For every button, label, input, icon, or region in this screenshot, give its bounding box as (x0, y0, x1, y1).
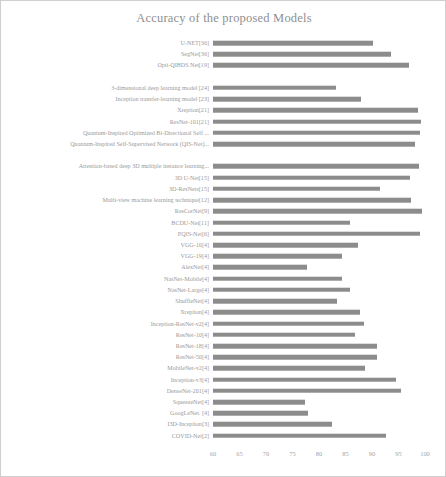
bar (213, 108, 418, 113)
bar-category-label: ResNet-50[4] (176, 354, 209, 361)
bar (213, 411, 308, 416)
bar-category-label: Inception-ResNet-v2[4] (151, 320, 209, 327)
bar-category-label: SegNet[36] (181, 51, 209, 58)
bar (213, 175, 410, 180)
bar-category-label: GoogLeNet. [4] (170, 410, 209, 417)
bar-category-label: U-NET[36] (181, 40, 209, 47)
bar (213, 209, 422, 214)
bar (213, 422, 332, 427)
bar (213, 344, 377, 349)
x-tick-label: 60 (210, 450, 216, 457)
bar-category-label: I3D-Inception[3] (167, 421, 209, 428)
bar-category-label: Opti-QIBDS Net[19] (157, 62, 209, 69)
x-tick-label: 95 (395, 450, 401, 457)
bar (213, 231, 420, 236)
bar-category-label: AlexNet[4] (181, 264, 209, 271)
bar-category-label: NasNet-Large[4] (167, 286, 209, 293)
x-tick-label: 85 (342, 450, 348, 457)
bar-category-label: 3D-ResNets[15] (169, 185, 209, 192)
bar (213, 52, 391, 57)
bar (213, 142, 415, 147)
bar-category-label: DenseNet-201[4] (167, 387, 209, 394)
bar-category-label: PQIS-Net[6] (178, 230, 209, 237)
bar-category-label: Xreption[4] (180, 309, 209, 316)
bar-category-label: VGG-19[4] (181, 253, 209, 260)
x-tick-label: 100 (420, 450, 430, 457)
bar (213, 130, 420, 135)
bar (213, 288, 350, 293)
bar (213, 41, 373, 46)
bar-category-label: 3-dimensional deep learning model [24] (111, 84, 209, 91)
bar (213, 198, 411, 203)
chart-title: Accuracy of the proposed Models (1, 11, 446, 26)
x-tick-label: 90 (369, 450, 375, 457)
bar-category-label: Inception transfer-learning model [23] (116, 96, 209, 103)
bar (213, 220, 350, 225)
bar (213, 433, 386, 438)
bar-category-label: ResCorNet[9] (175, 208, 209, 215)
bar-category-label: MobileNet-v2[4] (167, 365, 209, 372)
x-tick-label: 75 (289, 450, 295, 457)
bar-category-label: BCDU-Net[11] (171, 219, 209, 226)
bar-category-label: 3D U-Net[15] (175, 174, 209, 181)
bar (213, 299, 337, 304)
bar-category-label: ResNet-10[4] (176, 331, 209, 338)
bar (213, 276, 342, 281)
bar-category-label: SqueezeNet[4] (173, 399, 209, 406)
x-tick-label: 80 (316, 450, 322, 457)
plot-area: U-NET[36]SegNet[36]Opti-QIBDS Net[19]3-d… (1, 35, 446, 447)
bar-category-label: COVID-Net[2] (172, 432, 209, 439)
x-tick-label: 70 (263, 450, 269, 457)
x-axis: 6065707580859095100 (1, 450, 446, 470)
bar-category-label: NasNet-Mobile[4] (164, 275, 209, 282)
bar (213, 187, 380, 192)
bar (213, 332, 355, 337)
bar (213, 86, 336, 91)
bar-category-label: ResNet-18[4] (176, 342, 209, 349)
bar (213, 243, 358, 248)
bar-category-label: VGG-16[4] (181, 241, 209, 248)
bar (213, 400, 305, 405)
bar (213, 119, 421, 124)
bar (213, 321, 364, 326)
bar (213, 310, 360, 315)
bar-category-label: Multi-view machine learning technique[12… (103, 197, 209, 204)
bar (213, 265, 307, 270)
bar (213, 377, 396, 382)
x-tick-label: 65 (236, 450, 242, 457)
bar-category-label: ShuffleNet[4] (175, 298, 209, 305)
bar-category-label: Xreption[21] (177, 107, 209, 114)
bar (213, 389, 401, 394)
bar-category-label: Quantum-Inspired Optimized Bi-Directiona… (83, 129, 209, 136)
bar-category-label: Attention-based deep 3D multiple instanc… (79, 163, 209, 170)
bar (213, 164, 419, 169)
bar (213, 355, 377, 360)
accuracy-bar-chart: Accuracy of the proposed Models U-NET[36… (0, 0, 446, 477)
bar-category-label: ResNet-101[21] (170, 118, 209, 125)
bar (213, 254, 342, 259)
bar-category-label: Quantum-Inspired Self-Supervised Network… (70, 140, 209, 147)
bar-category-label: Inception-v3[4] (171, 376, 209, 383)
bar (213, 97, 361, 102)
bar (213, 63, 409, 68)
bar (213, 366, 365, 371)
